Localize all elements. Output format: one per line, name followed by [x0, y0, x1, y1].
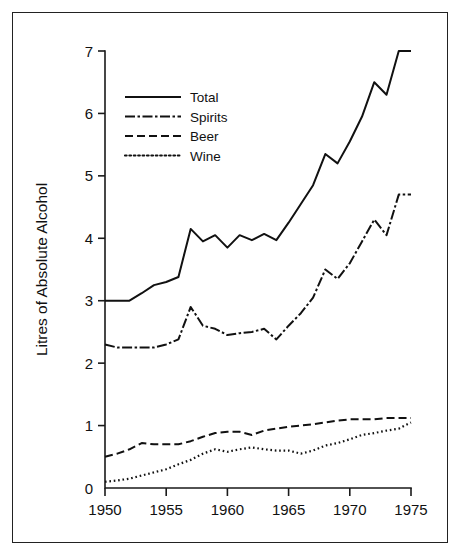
figure-border: 195019551960196519701975 01234567 Litres…	[12, 12, 448, 543]
y-tick-label: 2	[85, 355, 93, 372]
x-tick-label: 1950	[88, 501, 121, 518]
line-chart: 195019551960196519701975 01234567 Litres…	[13, 13, 449, 544]
y-tick-label: 1	[85, 417, 93, 434]
y-tick-label: 5	[85, 167, 93, 184]
legend-label-total: Total	[190, 90, 219, 105]
series-line-beer	[105, 418, 411, 457]
x-tick-label: 1960	[211, 501, 244, 518]
x-tick-labels: 195019551960196519701975	[88, 501, 427, 518]
legend-label-beer: Beer	[190, 129, 219, 144]
series-line-spirits	[105, 195, 411, 348]
y-tick-label: 7	[85, 43, 93, 60]
y-tick-label: 3	[85, 292, 93, 309]
legend-label-spirits: Spirits	[190, 110, 228, 125]
y-tick-labels: 01234567	[85, 43, 93, 497]
series-line-wine	[105, 422, 411, 481]
y-tick-label: 4	[85, 230, 93, 247]
x-tick-label: 1975	[394, 501, 427, 518]
y-tick-label: 6	[85, 105, 93, 122]
chart-legend: TotalSpiritsBeerWine	[125, 90, 228, 164]
figure-page: 195019551960196519701975 01234567 Litres…	[0, 0, 463, 558]
series-line-total	[105, 51, 411, 301]
y-tick-label: 0	[85, 480, 93, 497]
x-tick-label: 1955	[150, 501, 183, 518]
y-axis-title: Litres of Absolute Alcohol	[33, 183, 50, 356]
y-axis-title-text: Litres of Absolute Alcohol	[33, 183, 50, 356]
x-tick-label: 1970	[333, 501, 366, 518]
axis-ticks	[98, 51, 411, 496]
legend-label-wine: Wine	[190, 149, 221, 164]
x-tick-label: 1965	[272, 501, 305, 518]
